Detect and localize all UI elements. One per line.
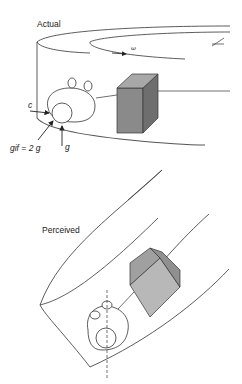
box-perceived — [130, 248, 180, 317]
force-g-label: g — [65, 142, 70, 152]
axis-mark — [212, 38, 224, 46]
tube-left — [40, 305, 90, 367]
person-actual — [47, 78, 95, 123]
tether-perceived — [118, 292, 134, 309]
person-perceived — [87, 301, 128, 350]
actual-label: Actual — [37, 19, 61, 29]
box-actual — [117, 74, 158, 133]
rotation-arrow — [112, 53, 126, 54]
perceived-label: Perceived — [42, 225, 80, 235]
force-c-label: c — [28, 100, 33, 110]
force-gif-label: gif = 2 g — [10, 143, 41, 153]
tether-person — [96, 95, 117, 98]
diagram-canvas: Actual ω c gif = 2 — [0, 0, 242, 384]
actual-panel: Actual ω c gif = 2 — [10, 19, 230, 153]
perceived-panel: Perceived — [40, 170, 229, 378]
omega-label: ω — [131, 44, 136, 51]
inner-ring — [90, 32, 230, 59]
force-c-arrow — [30, 111, 49, 113]
outer-floor-edge — [37, 42, 90, 53]
